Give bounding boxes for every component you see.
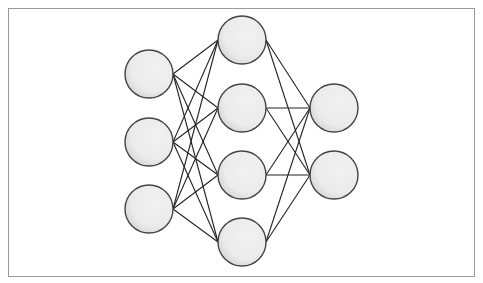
- output-node-1: [310, 84, 358, 132]
- nodes: [125, 16, 358, 266]
- input-node-2: [125, 118, 173, 166]
- edge-input-3-to-hidden-4: [173, 209, 218, 242]
- input-node-1: [125, 50, 173, 98]
- edge-input-2-to-hidden-1: [173, 40, 218, 142]
- connections: [173, 40, 310, 242]
- hidden-node-1: [218, 16, 266, 64]
- hidden-node-3: [218, 151, 266, 199]
- hidden-node-2: [218, 84, 266, 132]
- output-node-2: [310, 151, 358, 199]
- edge-input-1-to-hidden-1: [173, 40, 218, 74]
- hidden-node-4: [218, 218, 266, 266]
- edge-hidden-4-to-output-2: [266, 175, 310, 242]
- input-node-3: [125, 185, 173, 233]
- edge-input-3-to-hidden-3: [173, 175, 218, 209]
- edge-hidden-1-to-output-1: [266, 40, 310, 108]
- neural-network-diagram: [0, 0, 483, 283]
